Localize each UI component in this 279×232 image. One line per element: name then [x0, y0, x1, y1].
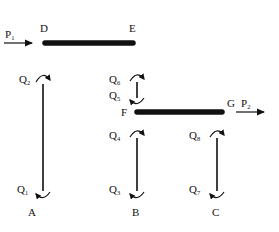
- node-e-label: E: [129, 22, 136, 34]
- moment-arc-q3-icon: [130, 192, 144, 198]
- moment-arc-q7-icon: [210, 192, 224, 198]
- load-p1-label: P1: [5, 28, 14, 41]
- moment-q7-label: Q7: [189, 183, 201, 196]
- node-f-label: F: [121, 106, 127, 118]
- moment-q6-label: Q6: [109, 73, 121, 86]
- node-c-label: C: [212, 206, 219, 218]
- load-p2-label: P2: [241, 97, 250, 110]
- frame-diagram: P1 D E Q2 Q1 A Q6 Q5 F G P2 Q4 Q3 B Q8 Q…: [0, 0, 279, 232]
- moment-q3-label: Q3: [109, 183, 120, 196]
- load-p1: P1: [4, 28, 32, 43]
- node-g-label: G: [227, 97, 235, 109]
- node-a-label: A: [28, 206, 36, 218]
- moment-q4-label: Q4: [109, 129, 121, 142]
- moment-arc-q2-icon: [36, 75, 50, 82]
- moment-arc-q1-icon: [36, 192, 50, 198]
- moment-arc-q5-icon: [130, 98, 144, 104]
- load-p2: P2: [236, 97, 264, 112]
- node-b-label: B: [132, 206, 139, 218]
- moment-q5-label: Q5: [109, 89, 120, 102]
- node-d-label: D: [40, 22, 48, 34]
- moment-arc-q6-icon: [130, 75, 144, 81]
- moment-q8-label: Q8: [189, 129, 200, 142]
- moment-q2-label: Q2: [19, 73, 30, 86]
- moment-q1-label: Q1: [17, 183, 28, 196]
- moment-arc-q8-icon: [210, 131, 224, 137]
- moment-arc-q4-icon: [130, 131, 144, 137]
